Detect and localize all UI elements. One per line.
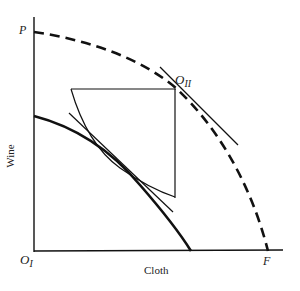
point-o1-sub: I (29, 258, 32, 269)
point-o1-label: OI (20, 252, 33, 268)
x-axis-label: Cloth (144, 264, 168, 276)
common-tangent-line (69, 113, 173, 212)
country-2-ppf-curve (71, 89, 175, 197)
point-o2-main: O (175, 72, 184, 87)
point-f-label: F (263, 254, 270, 269)
y-axis-label: Wine (4, 141, 16, 171)
country-1-ppf-curve (34, 116, 191, 251)
world-ppf-dashed-curve (34, 32, 268, 251)
point-o1-main: O (20, 252, 29, 267)
tangent-at-o2-line (160, 67, 238, 145)
ppf-diagram (0, 0, 300, 291)
point-o2-sub: II (184, 78, 191, 89)
x-axis (34, 250, 283, 251)
point-o2-label: OII (175, 72, 191, 88)
point-p-label: P (19, 23, 26, 38)
